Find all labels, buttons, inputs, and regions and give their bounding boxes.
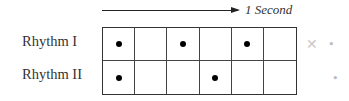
grid-cell [200, 61, 232, 94]
beat-dot-icon [116, 75, 122, 81]
beat-dot-icon [180, 41, 186, 47]
grid-cell [135, 28, 167, 61]
time-arrow-line [102, 10, 238, 11]
arrow-right-icon [231, 7, 240, 13]
grid-cell [167, 61, 199, 94]
scan-mark-dot-2: • [332, 72, 339, 85]
grid-cell [264, 61, 296, 94]
grid-cell [200, 28, 232, 61]
time-label: 1 Second [245, 2, 292, 18]
grid-cell [232, 28, 264, 61]
grid-cell [264, 28, 296, 61]
grid-cell [135, 61, 167, 94]
rhythm-1-label: Rhythm I [22, 33, 77, 50]
grid-cell [103, 61, 135, 94]
beat-dot-icon [244, 41, 250, 47]
grid-cell [103, 28, 135, 61]
scan-mark-dot: • [328, 38, 335, 51]
beat-dot-icon [116, 41, 122, 47]
grid-cell [167, 28, 199, 61]
rhythm-grid [102, 27, 297, 95]
rhythm-2-label: Rhythm II [22, 66, 82, 83]
grid-cell [232, 61, 264, 94]
scan-mark-x: ✕ [306, 36, 318, 52]
beat-dot-icon [212, 75, 218, 81]
